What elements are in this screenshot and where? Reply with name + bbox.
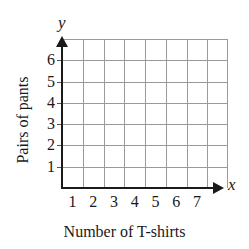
x-axis-tick-label: 2 xyxy=(83,194,103,210)
x-axis-tick-label: 3 xyxy=(104,194,124,210)
grid-top-border xyxy=(62,39,228,40)
plot-area xyxy=(62,39,228,188)
coordinate-grid-figure: y x 1234567 654321 Number of T-shirts Pa… xyxy=(0,0,249,249)
gridlines xyxy=(62,39,228,188)
x-axis-tick-label: 5 xyxy=(145,194,165,210)
gridline-vertical xyxy=(207,39,208,188)
gridline-vertical xyxy=(145,39,146,188)
y-axis-tick-label: 2 xyxy=(41,137,55,153)
x-axis-title: Number of T-shirts xyxy=(0,224,249,240)
gridline-vertical xyxy=(83,39,84,188)
grid-right-border xyxy=(227,39,228,188)
y-axis-title: Pairs of pants xyxy=(15,50,31,190)
x-axis-tick-label: 7 xyxy=(187,194,207,210)
x-axis-tick-label: 4 xyxy=(125,194,145,210)
y-axis-tick-label: 4 xyxy=(41,95,55,111)
y-axis-tick-label: 1 xyxy=(41,159,55,175)
y-axis-arrow-icon xyxy=(56,36,68,47)
gridline-horizontal xyxy=(62,82,228,83)
y-axis-line xyxy=(61,44,63,189)
gridline-horizontal xyxy=(62,145,228,146)
x-axis-tick-label: 1 xyxy=(62,194,82,210)
y-axis-tick-label: 3 xyxy=(41,116,55,132)
x-axis-arrow-icon xyxy=(213,182,224,194)
gridline-horizontal xyxy=(62,124,228,125)
gridline-vertical xyxy=(166,39,167,188)
x-axis-variable-label: x xyxy=(228,176,236,193)
x-axis-tick-label: 6 xyxy=(166,194,186,210)
gridline-vertical xyxy=(124,39,125,188)
gridline-horizontal xyxy=(62,167,228,168)
gridline-horizontal xyxy=(62,60,228,61)
gridline-vertical xyxy=(187,39,188,188)
y-axis-variable-label: y xyxy=(58,14,66,31)
y-axis-tick-label: 5 xyxy=(41,74,55,90)
gridline-horizontal xyxy=(62,103,228,104)
x-axis-line xyxy=(61,187,216,189)
gridline-vertical xyxy=(104,39,105,188)
y-axis-tick-label: 6 xyxy=(41,52,55,68)
